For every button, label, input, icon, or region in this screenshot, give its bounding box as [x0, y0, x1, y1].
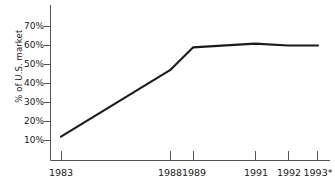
x-axis-tick-labels: 1983 1988 1989 1991 1992 1993* [0, 0, 335, 183]
x-tick-label: 1989 [182, 168, 206, 178]
line-chart: % of U.S. market 70% 60% 50% 40% 30% 20%… [0, 0, 335, 183]
x-tick-label: 1991 [244, 168, 268, 178]
x-tick-label: 1988 [158, 168, 182, 178]
x-tick-label: 1993* [304, 168, 333, 178]
x-tick-label: 1983 [49, 168, 73, 178]
x-tick-label: 1992 [277, 168, 301, 178]
